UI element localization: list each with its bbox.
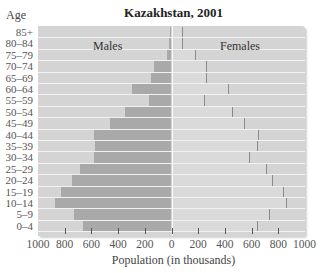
age-label: 70–74 — [6, 61, 34, 72]
plot-area: Males Females — [38, 26, 305, 236]
x-tick-label: 200 — [190, 238, 207, 250]
age-label: 40–44 — [6, 130, 34, 141]
male-bar — [125, 107, 172, 117]
female-bar — [173, 107, 233, 117]
age-label: 25–29 — [6, 164, 34, 175]
x-tick-label: 600 — [243, 238, 260, 250]
male-bar — [80, 164, 171, 174]
male-bar — [83, 221, 172, 231]
female-bar — [173, 187, 284, 197]
female-bar — [173, 209, 270, 219]
female-bar — [173, 221, 259, 231]
males-label: Males — [93, 39, 122, 54]
x-tick-label: 800 — [56, 238, 73, 250]
age-label: 30–34 — [6, 152, 34, 163]
female-bar — [173, 61, 208, 71]
x-tick — [145, 228, 146, 234]
female-bar — [173, 38, 183, 48]
male-bar — [95, 141, 171, 151]
male-bar — [61, 187, 171, 197]
female-bar — [173, 50, 196, 60]
x-tick — [172, 228, 173, 234]
female-bar — [173, 27, 183, 37]
x-tick — [118, 228, 119, 234]
x-tick — [91, 228, 92, 234]
female-bar — [173, 175, 273, 185]
male-bar — [94, 152, 172, 162]
x-tick-label: 800 — [270, 238, 287, 250]
male-bar — [55, 198, 171, 208]
male-bar — [72, 175, 171, 185]
age-axis-header: Age — [6, 8, 26, 23]
male-bar — [154, 61, 171, 71]
female-bar — [173, 152, 250, 162]
age-label: 45–49 — [6, 118, 34, 129]
male-bar — [132, 84, 171, 94]
x-tick-label: 1000 — [293, 238, 316, 250]
chart-title: Kazakhstan, 2001 — [0, 5, 321, 21]
female-bar — [173, 198, 288, 208]
age-label: 85+ — [16, 27, 33, 38]
female-bar — [173, 84, 230, 94]
age-label: 15–19 — [6, 187, 34, 198]
female-bar — [173, 141, 258, 151]
male-bar — [74, 209, 172, 219]
male-bar — [151, 73, 171, 83]
male-bar — [94, 130, 171, 140]
x-tick — [278, 228, 279, 234]
age-label: 0–4 — [17, 221, 34, 232]
x-tick-label: 400 — [216, 238, 233, 250]
female-bar — [173, 164, 267, 174]
age-label: 80–84 — [6, 38, 34, 49]
age-label: 55–59 — [6, 95, 34, 106]
x-tick — [65, 228, 66, 234]
x-tick-label: 1000 — [27, 238, 50, 250]
female-bar — [173, 118, 245, 128]
male-bar — [149, 95, 171, 105]
male-bar — [110, 118, 171, 128]
age-label: 10–14 — [6, 198, 34, 209]
x-tick — [225, 228, 226, 234]
age-label: 60–64 — [6, 84, 34, 95]
age-label: 50–54 — [6, 107, 34, 118]
females-label: Females — [220, 39, 260, 54]
x-tick-label: 600 — [83, 238, 100, 250]
x-tick-label: 0 — [169, 238, 175, 250]
x-tick-label: 400 — [109, 238, 126, 250]
age-label: 5–9 — [17, 209, 34, 220]
female-bar — [173, 130, 260, 140]
age-label: 65–69 — [6, 73, 34, 84]
age-label: 35–39 — [6, 141, 34, 152]
x-tick-label: 200 — [136, 238, 153, 250]
female-bar — [173, 95, 205, 105]
x-axis-label: Population (in thousands) — [0, 253, 321, 268]
x-tick — [252, 228, 253, 234]
center-axis-line — [172, 26, 173, 236]
x-tick — [198, 228, 199, 234]
age-label: 20–24 — [6, 175, 34, 186]
female-bar — [173, 73, 207, 83]
age-label: 75–79 — [6, 50, 34, 61]
